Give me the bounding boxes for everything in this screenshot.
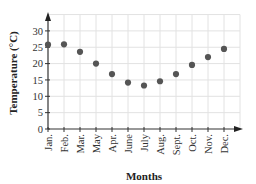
x-tick-label: Feb. [59, 134, 70, 152]
data-point [221, 46, 227, 52]
data-point [205, 54, 211, 60]
y-tick-label: 10 [33, 91, 44, 102]
grid-lines [48, 15, 240, 129]
data-point [141, 82, 147, 88]
chart-canvas: 051015202530 Jan.Feb.Mar.MayApr.JuneJuly… [0, 0, 256, 184]
x-tick-label: Mar. [75, 134, 86, 154]
x-tick-label: Jan. [43, 134, 54, 151]
x-tick-label: Sept. [171, 134, 182, 155]
y-tick-label: 0 [38, 124, 43, 135]
data-point [157, 78, 163, 84]
x-tick-label: Oct. [187, 134, 198, 152]
data-point [173, 71, 179, 77]
x-tick-label: Dec. [219, 134, 230, 154]
y-axis-arrow-icon [45, 12, 51, 21]
x-tick-label: Nov. [203, 134, 214, 154]
y-tick-label: 5 [38, 107, 43, 118]
data-point [93, 61, 99, 67]
data-point [77, 49, 83, 55]
x-axis-title: Months [126, 170, 163, 182]
x-tick-label: May [91, 133, 102, 153]
x-axis-ticks: Jan.Feb.Mar.MayApr.JuneJulyAug.Sept.Oct.… [43, 127, 230, 155]
data-point [45, 42, 51, 48]
y-tick-label: 30 [33, 26, 44, 37]
y-tick-label: 25 [33, 42, 44, 53]
data-point [109, 71, 115, 77]
y-tick-label: 15 [33, 75, 44, 86]
x-tick-label: July [139, 133, 150, 151]
x-tick-label: June [123, 134, 134, 154]
data-point [61, 41, 67, 47]
x-tick-label: Apr. [107, 134, 118, 152]
data-point [125, 79, 131, 85]
x-tick-label: Aug. [155, 134, 166, 155]
scatter-chart: 051015202530 Jan.Feb.Mar.MayApr.JuneJuly… [0, 0, 256, 184]
y-tick-label: 20 [33, 58, 44, 69]
data-points [45, 41, 227, 88]
x-axis-arrow-icon [234, 126, 243, 132]
data-point [189, 62, 195, 68]
y-axis-title: Temperature (°C) [7, 31, 20, 115]
